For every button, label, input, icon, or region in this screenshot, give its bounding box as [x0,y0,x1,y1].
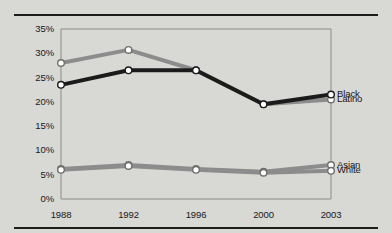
data-point-marker [125,47,132,54]
data-point-marker [58,60,65,67]
data-point-marker [193,167,200,174]
data-point-marker [125,163,132,170]
series-label-white: White [337,164,361,175]
data-point-marker [328,168,335,175]
data-point-marker [125,67,132,74]
data-point-marker [193,67,200,74]
chart-figure: 35%30%25%20%15%10%5%0% 19881992199620002… [0,0,392,233]
series-black [58,67,335,108]
data-point-marker [328,91,335,98]
data-point-marker [260,101,267,108]
line-chart-plot [0,0,392,233]
data-point-marker [58,167,65,174]
data-point-marker [260,169,267,176]
series-line-black [61,70,331,104]
series-label-latino: Latino [337,93,362,104]
data-point-marker [58,82,65,89]
